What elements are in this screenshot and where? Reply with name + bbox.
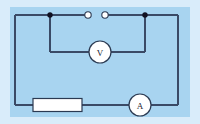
circuit-diagram-figure: V A [0,0,200,124]
ammeter-label: A [137,101,144,111]
switch-terminal-left-icon [85,12,91,18]
voltmeter-label: V [97,48,104,58]
junction-node-left [47,12,52,17]
resistor [33,99,82,112]
junction-node-right [142,12,147,17]
circuit-schematic: V A [0,0,200,124]
switch-terminal-right-icon [102,12,108,18]
